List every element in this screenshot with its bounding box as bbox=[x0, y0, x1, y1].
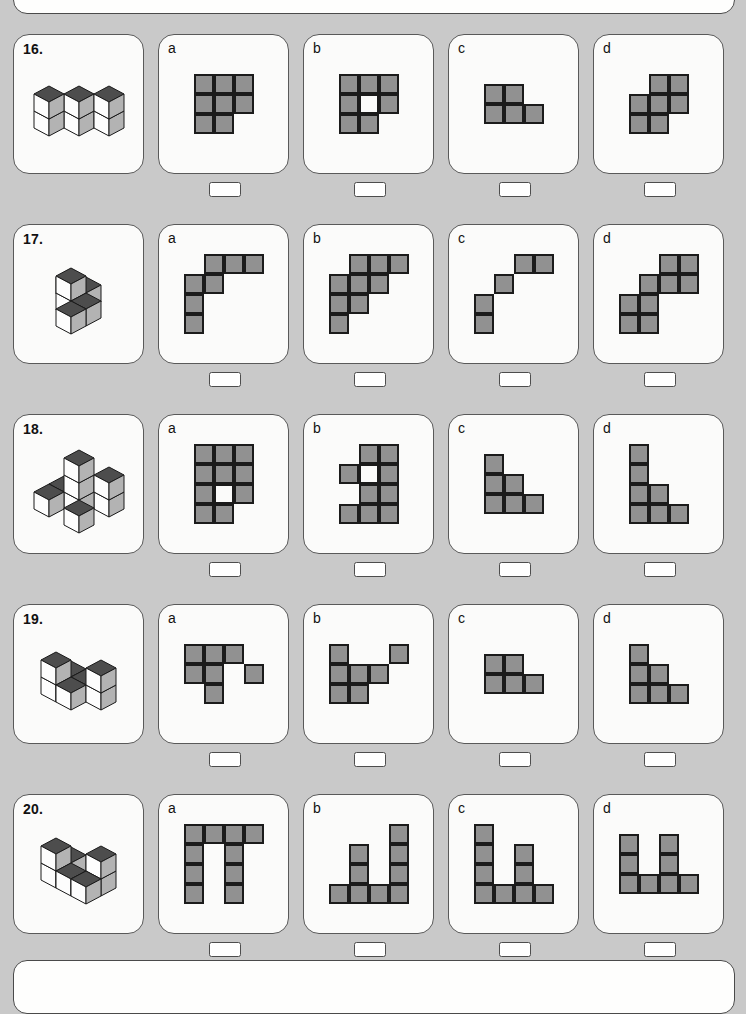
shape-cell-empty bbox=[669, 644, 689, 664]
shape-cell-empty bbox=[639, 854, 659, 874]
answer-blank-b[interactable] bbox=[354, 562, 386, 577]
shape-cell-filled bbox=[474, 864, 494, 884]
shape-cell-empty bbox=[349, 824, 369, 844]
shape-cell-filled bbox=[659, 274, 679, 294]
shape-cell-filled bbox=[244, 824, 264, 844]
answer-blank-d[interactable] bbox=[644, 752, 676, 767]
shape-cell-filled bbox=[359, 484, 379, 504]
shape-cell-empty bbox=[534, 294, 554, 314]
shape-cell-filled bbox=[379, 444, 399, 464]
option-card-c[interactable]: c bbox=[448, 34, 579, 174]
answer-blank-d[interactable] bbox=[644, 182, 676, 197]
answer-blank-d[interactable] bbox=[644, 562, 676, 577]
option-card-d[interactable]: d bbox=[593, 794, 724, 934]
shape-cell-empty bbox=[224, 684, 244, 704]
shape-cell-filled bbox=[484, 84, 504, 104]
shape-cell-empty bbox=[244, 684, 264, 704]
shape-cell-filled bbox=[629, 464, 649, 484]
shape-cell-filled bbox=[504, 474, 524, 494]
shape-cell-empty bbox=[244, 644, 264, 664]
option-card-d[interactable]: d bbox=[593, 34, 724, 174]
answer-blank-a[interactable] bbox=[209, 182, 241, 197]
shape-cell-filled bbox=[234, 74, 254, 94]
option-card-b[interactable]: b bbox=[303, 414, 434, 554]
answer-blank-c[interactable] bbox=[499, 752, 531, 767]
shape-grid bbox=[629, 444, 689, 524]
shape-cell-hole bbox=[214, 484, 234, 504]
shape-grid bbox=[339, 74, 399, 134]
answer-blank-b[interactable] bbox=[354, 942, 386, 957]
option-card-b[interactable]: b bbox=[303, 794, 434, 934]
shape-cell-filled bbox=[474, 844, 494, 864]
answer-blank-d[interactable] bbox=[644, 372, 676, 387]
option-card-a[interactable]: a bbox=[158, 414, 289, 554]
answer-blank-b[interactable] bbox=[354, 752, 386, 767]
answer-blank-c[interactable] bbox=[499, 942, 531, 957]
answer-blank-b[interactable] bbox=[354, 182, 386, 197]
shape-grid bbox=[619, 834, 699, 894]
shape-cell-empty bbox=[534, 864, 554, 884]
shape-cell-empty bbox=[514, 314, 534, 334]
shape-cell-empty bbox=[369, 684, 389, 704]
answer-blank-a[interactable] bbox=[209, 752, 241, 767]
answer-blank-c[interactable] bbox=[499, 372, 531, 387]
shape-cell-filled bbox=[214, 444, 234, 464]
option-card-a[interactable]: a bbox=[158, 794, 289, 934]
question-prompt-card-0: 16. bbox=[13, 34, 144, 174]
shape-cell-empty bbox=[244, 314, 264, 334]
answer-blank-a[interactable] bbox=[209, 942, 241, 957]
shape-cell-filled bbox=[669, 94, 689, 114]
option-card-d[interactable]: d bbox=[593, 604, 724, 744]
shape-cell-filled bbox=[339, 94, 359, 114]
option-card-c[interactable]: c bbox=[448, 414, 579, 554]
answer-blank-c[interactable] bbox=[499, 182, 531, 197]
shape-cell-filled bbox=[669, 504, 689, 524]
shape-cell-filled bbox=[484, 454, 504, 474]
shape-cell-empty bbox=[389, 664, 409, 684]
option-card-b[interactable]: b bbox=[303, 604, 434, 744]
shape-cell-filled bbox=[224, 864, 244, 884]
shape-cell-empty bbox=[369, 314, 389, 334]
shape-cell-filled bbox=[349, 844, 369, 864]
answer-blank-a[interactable] bbox=[209, 562, 241, 577]
shape-grid bbox=[474, 254, 554, 334]
shape-cell-filled bbox=[669, 684, 689, 704]
shape-cell-empty bbox=[204, 844, 224, 864]
shape-cell-empty bbox=[244, 864, 264, 884]
shape-cell-filled bbox=[329, 274, 349, 294]
shape-cell-filled bbox=[389, 864, 409, 884]
option-card-c[interactable]: c bbox=[448, 794, 579, 934]
shape-cell-filled bbox=[649, 94, 669, 114]
option-card-b[interactable]: b bbox=[303, 224, 434, 364]
answer-blank-c[interactable] bbox=[499, 562, 531, 577]
answer-blank-a[interactable] bbox=[209, 372, 241, 387]
shape-cell-filled bbox=[484, 494, 504, 514]
option-card-c[interactable]: c bbox=[448, 224, 579, 364]
shape-cell-filled bbox=[329, 644, 349, 664]
shape-cell-filled bbox=[659, 834, 679, 854]
shape-cell-filled bbox=[359, 504, 379, 524]
shape-grid bbox=[194, 74, 254, 134]
option-card-a[interactable]: a bbox=[158, 604, 289, 744]
option-shape-d bbox=[594, 415, 723, 553]
option-card-d[interactable]: d bbox=[593, 414, 724, 554]
shape-cell-empty bbox=[474, 254, 494, 274]
option-card-d[interactable]: d bbox=[593, 224, 724, 364]
shape-cell-filled bbox=[494, 274, 514, 294]
shape-cell-filled bbox=[474, 294, 494, 314]
option-card-a[interactable]: a bbox=[158, 34, 289, 174]
shape-cell-filled bbox=[619, 854, 639, 874]
shape-cell-filled bbox=[184, 864, 204, 884]
option-card-a[interactable]: a bbox=[158, 224, 289, 364]
shape-cell-empty bbox=[494, 254, 514, 274]
shape-cell-empty bbox=[629, 74, 649, 94]
shape-cell-filled bbox=[524, 104, 544, 124]
option-card-b[interactable]: b bbox=[303, 34, 434, 174]
shape-cell-filled bbox=[214, 74, 234, 94]
shape-cell-filled bbox=[619, 314, 639, 334]
option-card-c[interactable]: c bbox=[448, 604, 579, 744]
answer-blank-d[interactable] bbox=[644, 942, 676, 957]
shape-grid bbox=[184, 254, 264, 334]
answer-blank-b[interactable] bbox=[354, 372, 386, 387]
shape-cell-filled bbox=[194, 484, 214, 504]
